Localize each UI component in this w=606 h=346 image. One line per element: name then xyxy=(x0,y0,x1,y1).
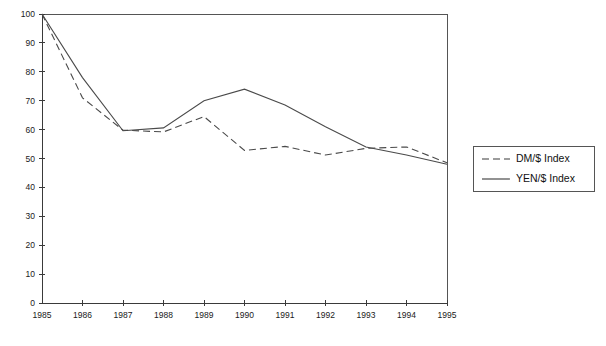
x-tick-label: 1985 xyxy=(33,310,52,320)
y-tick-label: 30 xyxy=(26,211,36,221)
x-tick-label: 1993 xyxy=(357,310,376,320)
series-line-2 xyxy=(42,14,447,164)
y-tick-label: 20 xyxy=(26,240,36,250)
x-tick-label: 1986 xyxy=(73,310,92,320)
x-tick-label: 1991 xyxy=(276,310,295,320)
y-tick-label: 80 xyxy=(26,67,36,77)
plot-area-frame xyxy=(42,14,447,303)
chart-legend: DM/$ IndexYEN/$ Index xyxy=(473,146,594,191)
legend-label-1: DM/$ Index xyxy=(516,152,570,164)
x-tick-label: 1987 xyxy=(114,310,133,320)
y-axis-ticks: 0102030405060708090100 xyxy=(21,9,45,308)
x-tick-label: 1995 xyxy=(438,310,457,320)
y-tick-label: 0 xyxy=(30,298,35,308)
x-tick-label: 1989 xyxy=(195,310,214,320)
y-tick-label: 10 xyxy=(26,269,36,279)
x-tick-label: 1988 xyxy=(154,310,173,320)
y-tick-label: 100 xyxy=(21,9,35,19)
y-tick-label: 40 xyxy=(26,182,36,192)
chart-canvas: 0102030405060708090100 19851986198719881… xyxy=(0,0,606,346)
y-tick-label: 50 xyxy=(26,154,36,164)
y-tick-label: 70 xyxy=(26,96,36,106)
series-line-1 xyxy=(42,14,447,163)
y-tick-label: 60 xyxy=(26,125,36,135)
x-tick-label: 1992 xyxy=(316,310,335,320)
x-tick-label: 1990 xyxy=(235,310,254,320)
x-tick-label: 1994 xyxy=(397,310,416,320)
plot-border xyxy=(42,14,447,303)
y-tick-label: 90 xyxy=(26,38,36,48)
legend-label-2: YEN/$ Index xyxy=(516,172,576,184)
line-chart-figure: 0102030405060708090100 19851986198719881… xyxy=(0,0,606,346)
data-series-group xyxy=(42,14,447,164)
